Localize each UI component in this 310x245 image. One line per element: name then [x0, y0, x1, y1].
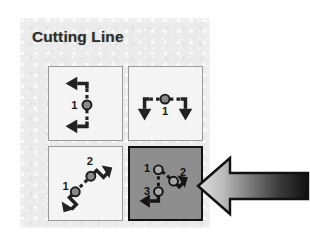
point-label-3: 3 [144, 185, 150, 197]
page-title: Cutting Line [32, 28, 124, 46]
point-label-1: 1 [162, 105, 168, 117]
callout-arrow-left [196, 150, 310, 222]
point-label-2: 2 [180, 166, 186, 178]
cutting-line-button-grid: 1 1 [48, 66, 203, 228]
cutting-line-horizontal-icon: 1 [129, 67, 202, 140]
cutting-line-two-point-button[interactable]: 1 2 [48, 146, 123, 221]
cutting-line-three-point-button[interactable]: 1 2 3 [128, 146, 203, 221]
cutting-line-three-point-icon: 1 2 3 [130, 148, 201, 219]
point-label-1: 1 [144, 162, 150, 174]
cutting-line-vertical-button[interactable]: 1 [48, 66, 123, 141]
cutting-line-horizontal-button[interactable]: 1 [128, 66, 203, 141]
scanned-page: Cutting Line 1 [0, 0, 310, 245]
point-label-2: 2 [87, 155, 93, 167]
callout-arrow-left-icon [196, 150, 310, 222]
cutting-line-two-point-icon: 1 2 [49, 147, 122, 220]
point-label-1: 1 [71, 99, 77, 111]
point-label-1: 1 [62, 180, 68, 192]
cutting-line-panel: Cutting Line 1 [20, 18, 210, 228]
cutting-line-vertical-icon: 1 [49, 67, 122, 140]
